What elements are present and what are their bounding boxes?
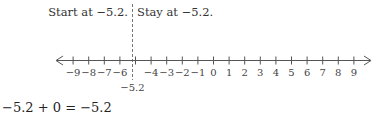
stay-annotation: Stay at −5.2.	[137, 5, 213, 19]
tick-label: −3	[159, 67, 174, 78]
tick-labels: −9−8−7−6−4−3−2−10123456789	[66, 67, 357, 78]
equation: −5.2 + 0 = −5.2	[2, 100, 112, 115]
tick-label: 4	[273, 67, 279, 78]
tick-label: −2	[175, 67, 190, 78]
tick-label: 3	[257, 67, 263, 78]
tick-label: 7	[320, 67, 326, 78]
tick-label: −1	[191, 67, 206, 78]
tick-label: −9	[66, 67, 81, 78]
tick-label: 0	[210, 67, 216, 78]
tick-label: 9	[351, 67, 357, 78]
tick-label: −8	[81, 67, 96, 78]
tick-label: 1	[226, 67, 232, 78]
marker-label: −5.2	[120, 82, 144, 93]
tick-label: −6	[113, 67, 128, 78]
tick-label: 2	[242, 67, 248, 78]
tick-label: −7	[97, 67, 112, 78]
tick-label: 6	[304, 67, 310, 78]
tick-label: 5	[288, 67, 294, 78]
tick-label: 8	[335, 67, 341, 78]
tick-label: −4	[144, 67, 159, 78]
start-annotation: Start at −5.2.	[48, 5, 128, 19]
